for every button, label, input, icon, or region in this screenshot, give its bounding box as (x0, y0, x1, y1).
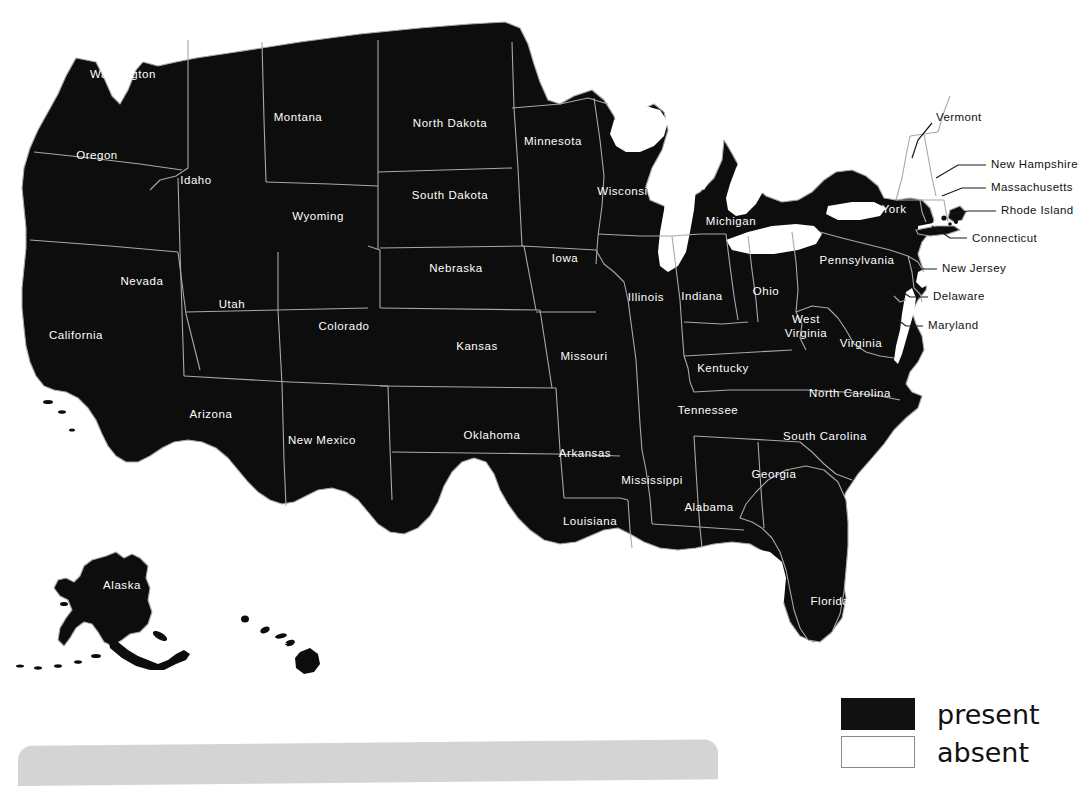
landform-channel-islands (43, 400, 53, 404)
state-label-minnesota: Minnesota (524, 135, 582, 147)
state-label-north-dakota: North Dakota (413, 117, 487, 129)
state-label-nebraska: Nebraska (429, 262, 483, 274)
state-label-nevada: Nevada (121, 275, 164, 287)
state-label-connecticut: Connecticut (972, 232, 1038, 244)
legend-label-absent: absent (937, 739, 1029, 766)
water-gulf-of-mexico (556, 544, 786, 640)
state-label-missouri: Missouri (560, 350, 607, 362)
leader-line-new-hampshire (936, 165, 986, 178)
landform-channel-islands-2 (58, 410, 66, 414)
state-label-wyoming: Wyoming (292, 210, 344, 222)
state-label-north-carolina: North Carolina (809, 387, 891, 399)
state-label-virginia: Virginia (840, 337, 883, 349)
state-label-tennessee: Tennessee (678, 404, 739, 416)
landform-aleutian-dot-3 (54, 664, 62, 668)
state-label-south-dakota: South Dakota (412, 189, 488, 201)
state-label-new-mexico: New Mexico (288, 434, 356, 446)
state-shape-hawaii-oahu (259, 625, 271, 635)
map-legend: present absent (841, 698, 1040, 768)
landform-nantucket-dot (954, 220, 958, 224)
state-label-south-carolina: South Carolina (783, 430, 867, 442)
state-label-kentucky: Kentucky (697, 362, 749, 374)
landform-aleutian-dot-6 (60, 602, 68, 606)
state-shape-hawaii-kauai (241, 616, 249, 623)
state-label-texas: Texas (431, 518, 464, 530)
state-label-georgia: Georgia (752, 468, 797, 480)
landform-aleutian-dot-2 (74, 660, 82, 664)
landform-marthas-vineyard-dot (948, 222, 952, 226)
state-label-wisconsin: Wisconsin (597, 185, 654, 197)
state-label-alabama: Alabama (684, 501, 733, 513)
state-label-washington: Washington (90, 68, 156, 80)
state-label-arkansas: Arkansas (559, 447, 611, 459)
state-label-ohio: Ohio (753, 285, 780, 297)
state-label-maryland: Maryland (928, 319, 979, 331)
legend-label-present: present (937, 701, 1040, 728)
state-label-new-hampshire: New Hampshire (991, 158, 1078, 170)
state-label-pennsylvania: Pennsylvania (819, 254, 894, 266)
state-label-mississippi: Mississippi (621, 474, 683, 486)
state-label-kansas: Kansas (456, 340, 498, 352)
leader-line-vermont (912, 123, 932, 158)
alaska-group (16, 552, 190, 670)
state-label-new-jersey: New Jersey (942, 262, 1006, 274)
legend-swatch-present (841, 698, 915, 730)
state-label-alaska: Alaska (103, 579, 141, 591)
state-shape-hawaii-big-island (295, 648, 320, 674)
landform-aleutian-dot-4 (34, 666, 42, 669)
state-label-illinois: Illinois (628, 291, 664, 303)
landform-kodiak-island (151, 629, 168, 643)
state-label-oregon: Oregon (76, 149, 118, 161)
state-label-massachusetts: Massachusetts (991, 181, 1073, 193)
state-label-delaware: Delaware (933, 290, 985, 302)
state-label-utah: Utah (219, 298, 246, 310)
landform-aleutian-dot-1 (91, 654, 101, 658)
state-label-oklahoma: Oklahoma (464, 429, 521, 441)
bottom-panel (18, 739, 718, 786)
leader-line-massachusetts (942, 188, 986, 196)
state-label-indiana: Indiana (681, 290, 723, 302)
state-label-iowa: Iowa (552, 252, 579, 264)
state-label-new-york: New York (854, 203, 907, 215)
legend-row-absent: absent (841, 736, 1040, 768)
state-label-michigan: Michigan (706, 215, 756, 227)
landform-channel-islands-3 (69, 428, 75, 431)
legend-swatch-absent (841, 736, 915, 768)
state-label-arizona: Arizona (190, 408, 233, 420)
state-label-florida: Florida (810, 595, 849, 607)
state-label-louisiana: Louisiana (563, 515, 617, 527)
legend-row-present: present (841, 698, 1040, 730)
state-label-hawaii: Hawaii (250, 641, 288, 653)
state-label-rhode-island: Rhode Island (1001, 204, 1074, 216)
landform-puget-sound (46, 72, 60, 92)
state-label-colorado: Colorado (318, 320, 369, 332)
state-label-idaho: Idaho (180, 174, 212, 186)
state-shape-alaska[interactable] (54, 552, 152, 646)
state-shape-hawaii-molokai (275, 632, 288, 639)
state-label-montana: Montana (274, 111, 323, 123)
state-label-vermont: Vermont (936, 111, 982, 123)
landform-rhode-island-dot (941, 215, 946, 220)
landform-aleutian-dot-5 (16, 664, 24, 667)
state-label-california: California (49, 329, 103, 341)
